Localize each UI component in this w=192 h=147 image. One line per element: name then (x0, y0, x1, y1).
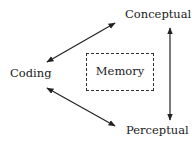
node-perceptual: Perceptual (126, 125, 189, 137)
node-coding: Coding (10, 68, 52, 80)
node-memory: Memory (96, 66, 144, 78)
node-conceptual: Conceptual (125, 9, 191, 21)
memory-dashed-box: Memory (86, 53, 154, 91)
memory-coding-diagram: Conceptual Coding Perceptual Memory (0, 0, 192, 147)
arrow-coding-perceptual (47, 88, 115, 126)
